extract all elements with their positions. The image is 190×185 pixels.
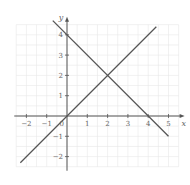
x-tick-label: −1 [42,120,52,128]
y-tick-label: 4 [59,31,64,39]
y-tick-label: −2 [53,153,63,161]
y-tick-label: −1 [53,133,63,141]
origin-label: 0 [60,120,64,128]
x-axis-label: x [181,119,186,128]
x-tick-label: 3 [126,120,130,128]
plot-line [20,27,156,163]
y-tick-label: 3 [59,52,63,60]
plot-line [53,21,169,137]
x-tick-label: −2 [21,120,31,128]
coordinate-plane: −2−112345−2−112340xy [0,0,190,185]
x-tick-label: 1 [85,120,89,128]
y-tick-label: 1 [59,92,63,100]
axes [14,17,184,171]
y-axis-label: y [58,13,64,22]
grid-lines [16,25,178,167]
x-tick-label: 4 [146,120,151,128]
y-axis-arrow-icon [65,17,69,22]
x-axis-arrow-icon [180,114,185,118]
x-tick-label: 2 [105,120,109,128]
y-tick-label: 2 [59,72,63,80]
x-tick-label: 5 [166,120,170,128]
plot-lines [20,21,168,163]
